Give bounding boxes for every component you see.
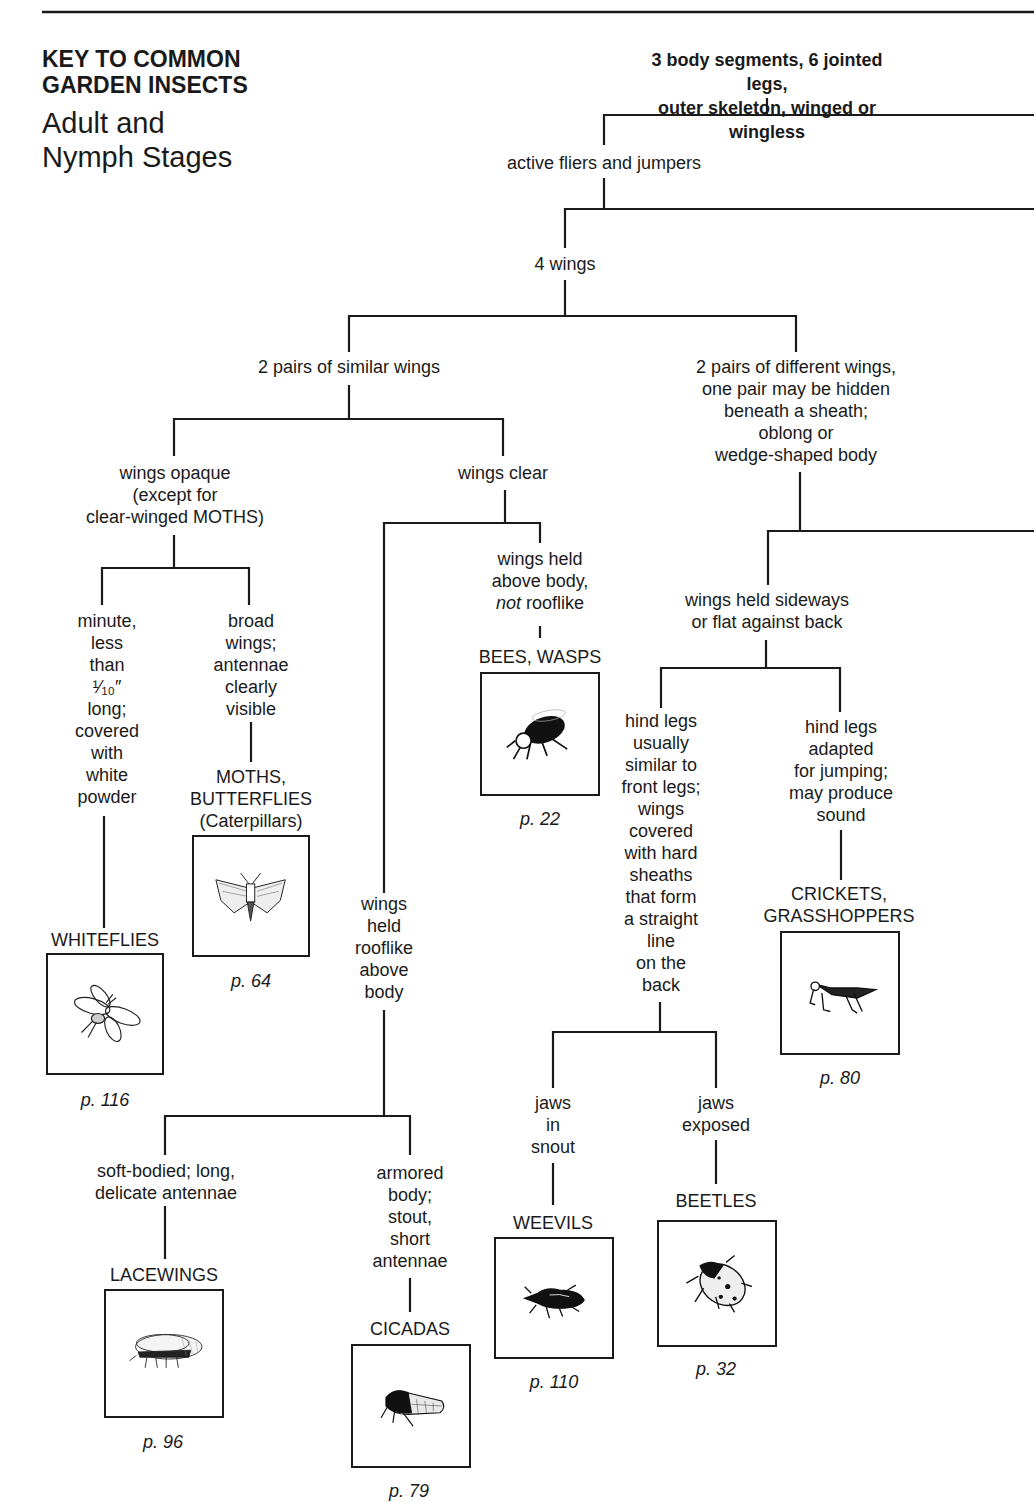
node-four-wings: 4 wings: [534, 253, 595, 275]
node-wings-opaque: wings opaque (except for clear-winged MO…: [86, 462, 264, 528]
page-ref-cicadas[interactable]: p. 79: [389, 1480, 429, 1502]
node-broad-wings: broad wings; antennae clearly visible: [213, 610, 288, 720]
insect-image-lacewings: [104, 1289, 224, 1418]
title-line-2: GARDEN INSECTS: [42, 72, 248, 98]
page-ref-crickets[interactable]: p. 80: [820, 1067, 860, 1089]
node-jaws-in-snout: jaws in snout: [531, 1092, 575, 1158]
lacewing-icon: [118, 1310, 211, 1398]
key-subtitle: Adult and Nymph Stages: [42, 106, 232, 174]
page-ref-weevils[interactable]: p. 110: [530, 1371, 579, 1393]
insect-name-whiteflies: WHITEFLIES: [51, 929, 159, 951]
weevil-icon: [508, 1257, 601, 1340]
node-similar-wings: 2 pairs of similar wings: [258, 356, 440, 378]
node-wings-clear: wings clear: [458, 462, 548, 484]
page-ref-whiteflies[interactable]: p. 116: [81, 1089, 130, 1111]
subtitle-line-1: Adult and: [42, 106, 232, 140]
insect-name-bees: BEES, WASPS: [479, 646, 601, 668]
held-above-rooflike: rooflike: [521, 593, 584, 613]
insect-image-moths: [192, 835, 310, 957]
node-armored: armored body; stout, short antennae: [372, 1162, 447, 1272]
insect-image-bees: [480, 672, 600, 796]
moth-icon: [205, 855, 296, 938]
insect-image-weevils: [494, 1237, 614, 1359]
page-ref-moths[interactable]: p. 64: [231, 970, 271, 992]
insect-name-cicadas: CICADAS: [370, 1318, 450, 1340]
node-wings-held-above: wings held above body,not rooflike: [492, 548, 589, 614]
node-hind-legs-jumping: hind legs adapted for jumping; may produ…: [789, 716, 893, 826]
insect-image-crickets: [780, 931, 900, 1055]
insect-image-whiteflies: [46, 953, 164, 1075]
page-ref-lacewings[interactable]: p. 96: [143, 1431, 183, 1453]
insect-image-cicadas: [351, 1344, 471, 1468]
whitefly-icon: [59, 973, 150, 1056]
insect-name-beetles: BEETLES: [675, 1190, 756, 1212]
node-soft-bodied: soft-bodied; long, delicate antennae: [95, 1160, 237, 1204]
insect-name-crickets: CRICKETS, GRASSHOPPERS: [763, 883, 914, 927]
cicada-icon: [365, 1364, 458, 1448]
insect-name-lacewings: LACEWINGS: [110, 1264, 218, 1286]
node-different-wings: 2 pairs of different wings, one pair may…: [696, 356, 896, 466]
node-wings-rooflike: wings held rooflike above body: [355, 893, 413, 1003]
bee-icon: [494, 692, 587, 776]
held-above-not: not: [496, 593, 521, 613]
page-ref-bees[interactable]: p. 22: [520, 808, 560, 830]
node-hind-legs-similar: hind legs usually similar to front legs;…: [621, 710, 700, 996]
node-wings-sideways: wings held sideways or flat against back: [685, 589, 849, 633]
page-ref-beetles[interactable]: p. 32: [696, 1358, 736, 1380]
node-active-fliers: active fliers and jumpers: [507, 152, 701, 174]
grasshopper-icon: [794, 951, 887, 1035]
insect-image-beetles: [657, 1220, 777, 1347]
insect-name-weevils: WEEVILS: [513, 1212, 593, 1234]
node-minute: minute, less than ¹⁄₁₀″ long; covered wi…: [75, 610, 139, 808]
node-root: 3 body segments, 6 jointed legs, outer s…: [634, 48, 901, 144]
subtitle-line-2: Nymph Stages: [42, 140, 232, 174]
key-title: KEY TO COMMON GARDEN INSECTS: [42, 46, 248, 98]
node-jaws-exposed: jaws exposed: [682, 1092, 750, 1136]
insect-name-moths: MOTHS, BUTTERFLIES (Caterpillars): [190, 766, 312, 832]
beetle-icon: [671, 1240, 764, 1326]
title-line-1: KEY TO COMMON: [42, 46, 248, 72]
held-above-text: wings held above body,: [492, 549, 589, 591]
